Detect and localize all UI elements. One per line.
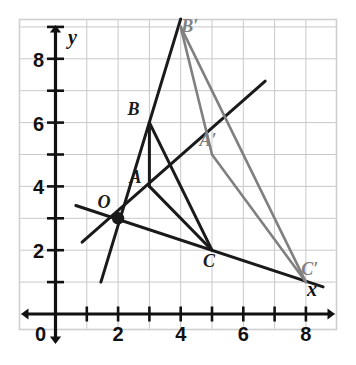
coordinate-plane-svg: OABCA′B′C′ 246824680 yx	[0, 0, 356, 365]
center-of-dilation-dot	[112, 212, 124, 224]
point-markers	[112, 212, 124, 224]
point-label-B-prime: B′	[180, 16, 198, 36]
point-label-C-prime: C′	[301, 259, 318, 279]
y-tick-label-4: 4	[33, 176, 45, 198]
x-tick-label-6: 6	[238, 323, 249, 345]
y-tick-label-8: 8	[33, 49, 44, 71]
y-tick-label-6: 6	[33, 113, 44, 135]
point-label-A: A	[128, 167, 141, 187]
dilation-figure: OABCA′B′C′ 246824680 yx	[0, 0, 356, 365]
y-axis-arrow-down	[50, 337, 61, 345]
point-label-O: O	[98, 192, 111, 212]
point-label-B: B	[126, 99, 139, 119]
x-axis-label: x	[306, 278, 317, 300]
y-tick-label-2: 2	[33, 240, 44, 262]
x-tick-label-4: 4	[175, 323, 187, 345]
point-label-A-prime: A′	[198, 130, 216, 150]
x-tick-label-2: 2	[113, 323, 124, 345]
y-axis-label: y	[66, 26, 77, 49]
x-tick-label-8: 8	[300, 323, 311, 345]
point-label-C: C	[203, 251, 216, 271]
figure-border	[20, 20, 337, 330]
origin-label: 0	[35, 323, 46, 345]
